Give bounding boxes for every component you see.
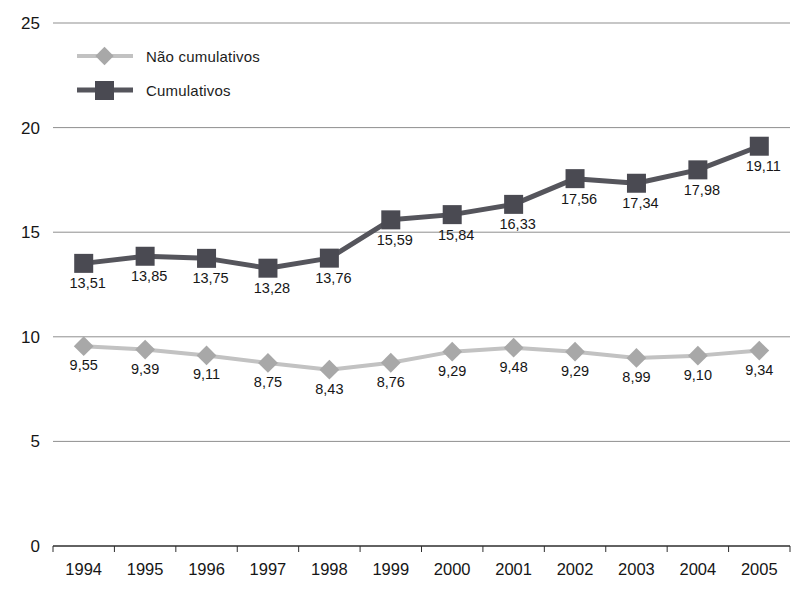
square-marker-icon [197,249,216,268]
y-tick-label: 10 [21,328,40,347]
data-point-label: 17,98 [684,182,720,198]
y-axis-tick-labels: 0510152025 [21,14,40,556]
square-marker-icon [504,195,523,214]
data-point-label: 8,76 [377,374,405,390]
line-chart: 0510152025199419951996199719981999200020… [0,0,804,603]
y-tick-label: 20 [21,119,40,138]
data-point-label: 15,84 [438,227,474,243]
x-tick-label: 2004 [680,560,717,578]
data-point-label: 13,51 [70,275,106,291]
data-point-label: 9,29 [438,363,466,379]
square-marker-icon [566,169,585,188]
legend-item-nao-cumulativos: Não cumulativos [76,44,260,68]
square-marker-icon [258,259,277,278]
x-tick-label: 2005 [741,560,778,578]
data-point-label: 8,43 [315,381,343,397]
diamond-marker-icon [627,348,647,368]
x-axis-tick-labels: 1994199519961997199819992000200120022003… [65,560,777,578]
square-marker-icon [74,254,93,273]
x-tick-label: 1995 [127,560,164,578]
diamond-marker-icon [749,341,769,361]
x-tick-label: 2001 [495,560,532,578]
data-point-label: 9,29 [561,363,589,379]
data-point-label: 9,10 [684,367,712,383]
x-tick-label: 1998 [311,560,348,578]
x-tick-label: 2000 [434,560,471,578]
diamond-marker-icon [74,336,94,356]
diamond-marker-icon [197,346,217,366]
legend-label-cumulativos: Cumulativos [146,82,231,99]
data-point-label: 13,85 [131,268,167,284]
series-nao-cumulativos: 9,559,399,118,758,438,769,299,489,298,99… [70,336,774,396]
data-point-label: 8,99 [622,369,650,385]
square-marker-icon [443,205,462,224]
legend-item-cumulativos: Cumulativos [76,78,260,102]
data-point-label: 8,75 [254,374,282,390]
data-point-label: 19,11 [746,158,781,174]
diamond-marker-icon [76,46,134,66]
square-marker-icon [381,210,400,229]
data-point-label: 15,59 [377,232,413,248]
data-point-label: 17,34 [622,195,658,211]
diamond-marker-icon [504,338,524,358]
square-marker-icon [320,249,339,268]
series-cumulativos: 13,5113,8513,7513,2813,7615,5915,8416,33… [70,137,781,296]
data-point-label: 13,76 [315,270,351,286]
x-tick-label: 1994 [65,560,102,578]
legend-label-nao-cumulativos: Não cumulativos [146,48,260,65]
data-point-label: 9,48 [500,359,528,375]
diamond-marker-icon [258,353,278,373]
x-tick-label: 1999 [372,560,409,578]
diamond-marker-icon [565,342,585,362]
square-marker-icon [76,80,134,100]
x-tick-label: 1997 [250,560,287,578]
x-tick-label: 2003 [618,560,655,578]
diamond-marker-icon [135,340,155,360]
y-tick-label: 0 [31,537,40,556]
square-marker-icon [136,247,155,266]
square-marker-icon [627,174,646,193]
data-point-label: 16,33 [499,216,535,232]
data-point-label: 9,11 [193,366,220,382]
diamond-marker-icon [319,360,339,380]
y-tick-label: 5 [31,432,40,451]
square-marker-icon [688,160,707,179]
data-point-label: 9,39 [131,361,159,377]
x-axis [53,546,790,552]
data-point-label: 9,55 [70,357,98,373]
diamond-marker-icon [688,346,708,366]
square-marker-icon [750,137,769,156]
x-tick-label: 2002 [557,560,594,578]
legend: Não cumulativos Cumulativos [76,44,260,102]
data-point-label: 9,34 [745,362,773,378]
y-tick-label: 25 [21,14,40,33]
y-tick-label: 15 [21,223,40,242]
diamond-marker-icon [442,342,462,362]
x-tick-label: 1996 [188,560,225,578]
data-point-label: 17,56 [561,191,597,207]
data-point-label: 13,75 [192,270,228,286]
diamond-marker-icon [381,353,401,373]
data-point-label: 13,28 [254,280,290,296]
